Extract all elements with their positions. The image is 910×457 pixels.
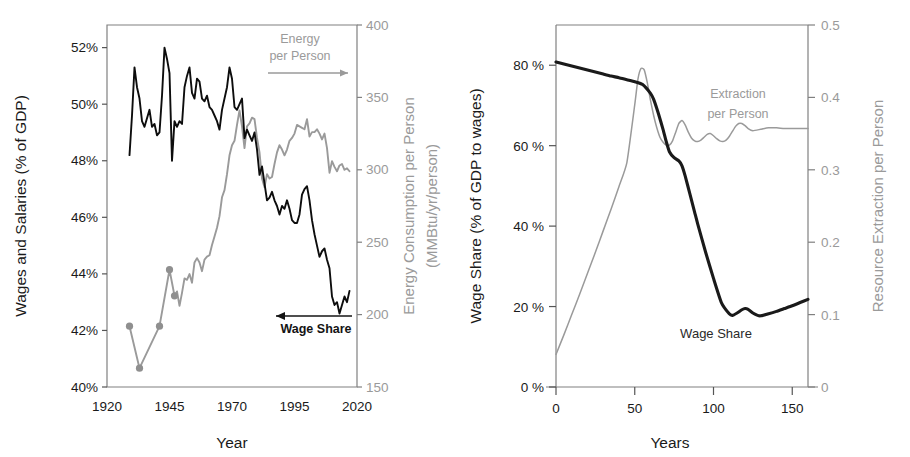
wage-arrow-head-icon	[276, 312, 285, 320]
left-y2-ticklabel: 400	[366, 18, 389, 33]
left-chart-y2label: Energy Consumption per Person	[400, 97, 417, 315]
left-y2-ticklabel: 300	[366, 162, 389, 177]
chart-panel-historical: Wages and Salaries (% of GDP) Year Energ…	[0, 0, 455, 457]
wage-share-label-right: Wage Share	[680, 326, 752, 341]
right-extraction-series	[556, 68, 808, 354]
right-y-ticklabel: 60 %	[513, 139, 544, 154]
left-x-ticklabel: 1970	[217, 399, 247, 414]
left-y-ticklabel: 48%	[71, 153, 98, 168]
left-y2-ticklabel: 150	[366, 380, 389, 395]
left-y2-ticklabel: 250	[366, 235, 389, 250]
left-wage-series	[130, 48, 350, 314]
left-energy-marker	[136, 365, 143, 372]
left-chart-ylabel: Wages and Salaries (% of GDP)	[12, 95, 29, 317]
left-energy-marker	[166, 266, 173, 273]
right-y-ticklabel: 40 %	[513, 219, 544, 234]
chart-panel-model: Wage Share (% of GDP to wages) Years Res…	[455, 0, 910, 457]
right-y2-ticklabel: 0.2	[821, 235, 840, 250]
extraction-per-person-label-line1: Extraction	[710, 87, 766, 101]
right-x-ticklabel: 0	[552, 401, 560, 416]
right-x-ticklabel: 100	[702, 401, 725, 416]
right-y2-ticklabel: 0.1	[821, 308, 840, 323]
right-y-ticklabel: 80 %	[513, 58, 544, 73]
model-chart-svg: Wage Share (% of GDP to wages) Years Res…	[455, 0, 910, 457]
left-y2-ticklabel: 350	[366, 90, 389, 105]
historical-chart-svg: Wages and Salaries (% of GDP) Year Energ…	[0, 0, 455, 457]
left-y-ticklabel: 52%	[71, 40, 98, 55]
right-y2-ticklabel: 0.4	[821, 90, 840, 105]
left-x-ticklabel: 1920	[92, 399, 122, 414]
energy-per-person-label-line1: Energy	[280, 32, 320, 46]
left-x-ticklabel: 2020	[342, 399, 372, 414]
left-y2-ticklabel: 200	[366, 307, 389, 322]
right-y-ticklabel: 0 %	[521, 380, 544, 395]
left-y-ticklabel: 44%	[71, 266, 98, 281]
left-plot-area: 40%42%44%46%48%50%52%1502002503003504001…	[71, 18, 389, 415]
right-chart-y2label: Resource Extraction per Person	[869, 100, 886, 313]
figure-container: Wages and Salaries (% of GDP) Year Energ…	[0, 0, 910, 457]
right-plot-area: 0 %20 %40 %60 %80 %00.10.20.30.40.505010…	[513, 18, 840, 416]
left-energy-marker	[156, 323, 163, 330]
right-chart-xlabel: Years	[650, 434, 689, 451]
right-y-ticklabel: 20 %	[513, 300, 544, 315]
left-y-ticklabel: 40%	[71, 380, 98, 395]
left-chart-xlabel: Year	[216, 434, 247, 451]
right-y2-ticklabel: 0.3	[821, 163, 840, 178]
left-y-ticklabel: 42%	[71, 323, 98, 338]
left-y-ticklabel: 46%	[71, 210, 98, 225]
right-y2-ticklabel: 0	[821, 380, 829, 395]
wage-share-label-left: Wage Share	[280, 322, 351, 336]
right-wage-series	[556, 62, 808, 316]
right-y2-ticklabel: 0.5	[821, 18, 840, 33]
left-x-ticklabel: 1945	[154, 399, 184, 414]
left-x-ticklabel: 1995	[279, 399, 309, 414]
energy-per-person-label-line2: per Person	[269, 49, 330, 63]
left-energy-marker	[126, 323, 133, 330]
right-x-ticklabel: 50	[627, 401, 642, 416]
left-energy-marker	[171, 292, 178, 299]
extraction-per-person-label-line2: per Person	[707, 107, 768, 121]
right-chart-ylabel: Wage Share (% of GDP to wages)	[467, 88, 484, 323]
left-y-ticklabel: 50%	[71, 97, 98, 112]
right-x-ticklabel: 150	[781, 401, 804, 416]
energy-arrow-head-icon	[340, 70, 348, 77]
left-chart-y2label-units: (MMBtu/yr/person)	[423, 144, 440, 268]
